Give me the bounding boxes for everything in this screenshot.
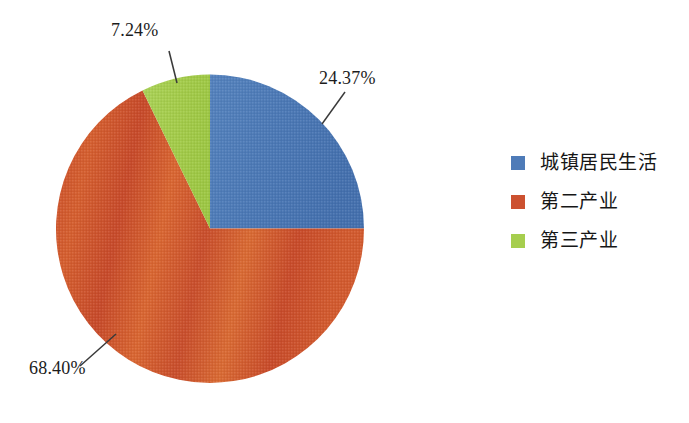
legend-item-urban-residents[interactable]: 城镇居民生活	[511, 152, 657, 174]
legend-label-tertiary-industry: 第三产业	[540, 230, 618, 252]
legend-item-tertiary-industry[interactable]: 第三产业	[511, 230, 657, 252]
data-label-urban-residents: 24.37%	[319, 68, 376, 89]
leader-line-urban-residents	[322, 92, 345, 124]
legend-swatch-urban-residents	[511, 156, 525, 170]
legend-swatch-tertiary-industry	[511, 234, 525, 248]
pie-chart-figure: 7.24% 24.37% 68.40% 城镇居民生活 第二产业 第三产业	[0, 0, 689, 423]
chart-legend: 城镇居民生活 第二产业 第三产业	[511, 152, 657, 252]
legend-swatch-secondary-industry	[511, 195, 525, 209]
leader-line-tertiary-industry	[169, 51, 177, 83]
data-label-tertiary-industry: 7.24%	[111, 20, 159, 41]
legend-label-urban-residents: 城镇居民生活	[540, 152, 657, 174]
data-label-secondary-industry: 68.40%	[29, 358, 86, 379]
legend-item-secondary-industry[interactable]: 第二产业	[511, 191, 657, 213]
legend-label-secondary-industry: 第二产业	[540, 191, 618, 213]
